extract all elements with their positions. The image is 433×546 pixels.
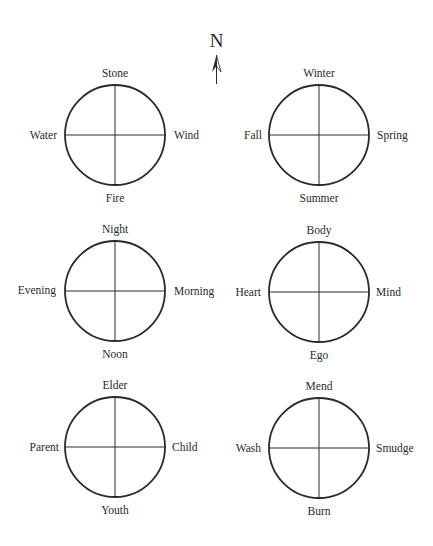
label-left: Wash: [236, 442, 262, 454]
label-bottom: Summer: [300, 192, 339, 204]
label-top: Mend: [306, 380, 333, 392]
wheel-cleansing: Mend Smudge Burn Wash: [236, 380, 414, 517]
wheel-seasons: Winter Spring Summer Fall: [244, 67, 408, 204]
label-left: Water: [30, 129, 57, 141]
label-bottom: Burn: [308, 505, 331, 517]
label-top: Night: [102, 223, 129, 236]
wheel-self: Body Mind Ego Heart: [235, 224, 401, 362]
label-bottom: Ego: [310, 349, 329, 362]
wheel-life-stages: Elder Child Youth Parent: [30, 379, 198, 516]
label-left: Parent: [30, 441, 60, 453]
label-top: Winter: [303, 67, 335, 79]
label-right: Smudge: [376, 442, 414, 455]
label-right: Spring: [377, 129, 408, 142]
north-label: N: [210, 30, 224, 51]
label-right: Mind: [376, 286, 401, 298]
label-top: Stone: [102, 67, 128, 79]
label-bottom: Fire: [106, 192, 125, 204]
medicine-wheels-diagram: N Stone Wind Fire Water Winter Spring Su…: [0, 0, 433, 546]
label-top: Elder: [103, 379, 128, 391]
label-right: Child: [172, 441, 198, 453]
label-bottom: Youth: [101, 504, 129, 516]
north-arrow-icon: [212, 55, 221, 84]
wheel-elements: Stone Wind Fire Water: [30, 67, 200, 204]
label-left: Heart: [235, 286, 261, 298]
label-left: Fall: [244, 129, 262, 141]
label-top: Body: [307, 224, 332, 237]
label-right: Morning: [174, 285, 215, 298]
label-bottom: Noon: [102, 348, 128, 360]
wheel-times-of-day: Night Morning Noon Evening: [18, 223, 215, 360]
label-right: Wind: [174, 129, 199, 141]
north-indicator: N: [210, 30, 224, 84]
label-left: Evening: [18, 284, 57, 297]
